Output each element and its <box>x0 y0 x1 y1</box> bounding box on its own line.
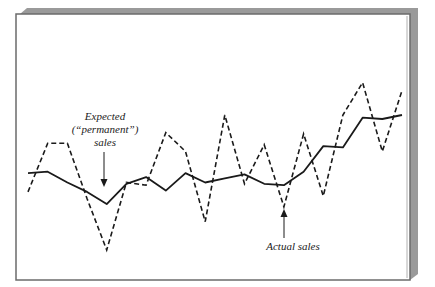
chart-figure: Expected (“permanent”) sales Actual sale… <box>0 0 435 287</box>
chart-svg <box>0 0 435 287</box>
expected-label-line3: sales <box>70 136 140 149</box>
actual-sales-annotation: Actual sales <box>258 240 328 253</box>
expected-label-line2: (“permanent”) <box>70 123 140 136</box>
frame-shadow-top <box>20 8 418 14</box>
expected-label-line1: Expected <box>70 110 140 123</box>
expected-sales-annotation: Expected (“permanent”) sales <box>70 110 140 149</box>
frame-shadow-right <box>410 8 418 280</box>
